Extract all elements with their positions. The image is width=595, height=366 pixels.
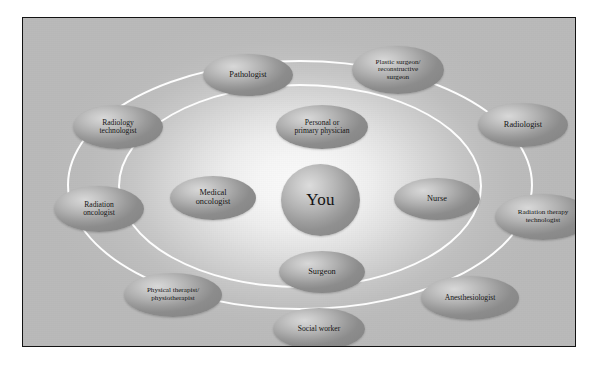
node-radiology-technologist-label: Radiologytechnologist xyxy=(96,119,139,135)
node-nurse[interactable]: Nurse xyxy=(394,178,480,220)
node-physical-therapist-physiotherapist[interactable]: Physical therapist/physiotherapist xyxy=(124,273,222,317)
node-radiologist-label: Radiologist xyxy=(501,121,545,130)
node-anesthesiologist[interactable]: Anesthesiologist xyxy=(421,276,519,320)
node-medical-oncologist-label: Medicaloncologist xyxy=(193,189,234,207)
node-radiology-technologist[interactable]: Radiologytechnologist xyxy=(73,105,163,149)
node-anesthesiologist-label: Anesthesiologist xyxy=(442,294,499,302)
node-radiation-therapy-technologist-label: Radiation therapytechnologist xyxy=(515,209,572,224)
node-radiologist[interactable]: Radiologist xyxy=(478,103,568,147)
node-surgeon[interactable]: Surgeon xyxy=(279,251,365,293)
node-radiation-oncologist[interactable]: Radiationoncologist xyxy=(54,186,144,232)
node-pathologist[interactable]: Pathologist xyxy=(203,54,293,96)
node-personal-or-primary-physician[interactable]: Personal orprimary physician xyxy=(276,105,368,149)
node-medical-oncologist[interactable]: Medicaloncologist xyxy=(170,176,256,220)
node-radiation-oncologist-label: Radiationoncologist xyxy=(80,201,118,217)
node-social-worker[interactable]: Social worker xyxy=(273,308,365,347)
node-nurse-label: Nurse xyxy=(424,195,450,204)
node-personal-or-primary-physician-label: Personal orprimary physician xyxy=(291,119,352,135)
node-you[interactable]: You xyxy=(281,164,360,236)
node-pathologist-label: Pathologist xyxy=(226,71,269,80)
node-plastic-reconstructive-surgeon[interactable]: Plastic surgeon/reconstructivesurgeon xyxy=(352,46,444,94)
node-plastic-reconstructive-surgeon-label: Plastic surgeon/reconstructivesurgeon xyxy=(373,59,424,82)
node-you-label: You xyxy=(303,191,337,209)
node-surgeon-label: Surgeon xyxy=(305,268,339,277)
node-physical-therapist-physiotherapist-label: Physical therapist/physiotherapist xyxy=(144,287,202,302)
diagram-canvas: You Personal orprimary physician Medical… xyxy=(0,0,595,366)
diagram-frame: You Personal orprimary physician Medical… xyxy=(22,17,576,347)
node-social-worker-label: Social worker xyxy=(295,325,343,333)
